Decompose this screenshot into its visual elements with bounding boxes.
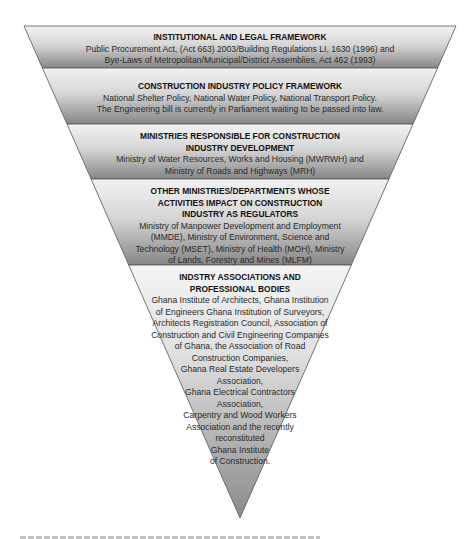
level-5-line: of Ghana, the Association of Road <box>140 341 340 353</box>
level-4-text: OTHER MINISTRIES/DEPARTMENTS WHOSE ACTIV… <box>110 186 370 267</box>
level-5-line: Association and the recently <box>140 422 340 434</box>
level-3-line: Ministry of Roads and Highways (MRH) <box>90 166 390 178</box>
level-5-line: of Engineers Ghana Institution of Survey… <box>140 307 340 319</box>
level-5-line: Ghana Electrical Contractors <box>140 387 340 399</box>
level-4-title: INDUSTRY AS REGULATORS <box>110 209 370 221</box>
level-2-line: National Shelter Policy, National Water … <box>60 93 420 105</box>
level-4-line: of Lands, Forestry and Mines (MLFM) <box>110 255 370 267</box>
level-5-line: Construction and Civil Engineering Compa… <box>140 330 340 342</box>
level-5-line: Carpentry and Wood Workers <box>140 410 340 422</box>
level-5-line: Ghana Institute <box>140 445 340 457</box>
level-3-title: INDUSTRY DEVELOPMENT <box>90 143 390 155</box>
level-5-line: Ghana Real Estate Developers <box>140 364 340 376</box>
level-4-line: Ministry of Manpower Development and Emp… <box>110 221 370 233</box>
level-4-title: OTHER MINISTRIES/DEPARTMENTS WHOSE <box>110 186 370 198</box>
level-4-title: ACTIVITIES IMPACT ON CONSTRUCTION <box>110 198 370 210</box>
level-3-title: MINISTRIES RESPONSIBLE FOR CONSTRUCTION <box>90 131 390 143</box>
level-5-title: INDSTRY ASSOCIATIONS AND <box>140 272 340 284</box>
level-1-title: INSTITUTIONAL AND LEGAL FRAMEWORK <box>40 32 440 44</box>
level-4-line: Technology (MSET), Ministry of Health (M… <box>110 244 370 256</box>
level-1-line: Bye-Laws of Metropolitan/Municipal/Distr… <box>40 55 440 67</box>
level-5-line: Association, <box>140 399 340 411</box>
level-2-line: The Engineering bill is currently in Par… <box>60 104 420 116</box>
level-1-text: INSTITUTIONAL AND LEGAL FRAMEWORK Public… <box>40 32 440 67</box>
level-5-text: INDSTRY ASSOCIATIONS AND PROFESSIONAL BO… <box>140 272 340 468</box>
level-2-title: CONSTRUCTION INDUSTRY POLICY FRAMEWORK <box>60 81 420 93</box>
level-3-text: MINISTRIES RESPONSIBLE FOR CONSTRUCTION … <box>90 131 390 177</box>
level-5-line: Association, <box>140 376 340 388</box>
clipped-figure-caption <box>20 531 320 539</box>
level-3-line: Ministry of Water Resources, Works and H… <box>90 154 390 166</box>
level-2-text: CONSTRUCTION INDUSTRY POLICY FRAMEWORK N… <box>60 81 420 116</box>
level-1-line: Public Procurement Act, (Act 663) 2003/B… <box>40 44 440 56</box>
level-5-line: Ghana Institute of Architects, Ghana Ins… <box>140 295 340 307</box>
level-5-line: Construction Companies, <box>140 353 340 365</box>
level-5-title: PROFESSIONAL BODIES <box>140 284 340 296</box>
level-4-line: (MMDE), Ministry of Environment, Science… <box>110 232 370 244</box>
level-5-line: of Construction. <box>140 456 340 468</box>
level-5-line: reconstituted <box>140 433 340 445</box>
level-5-line: Architects Registration Council, Associa… <box>140 318 340 330</box>
